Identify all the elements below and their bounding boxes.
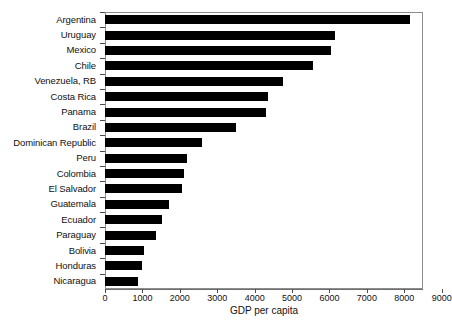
bar-row <box>105 104 423 119</box>
bar <box>105 123 236 132</box>
bar <box>105 77 283 86</box>
value-axis-tick-label: 2000 <box>170 293 190 304</box>
category-label: Chile <box>75 61 96 71</box>
bar <box>105 277 138 286</box>
category-label-cell: Costa Rica <box>0 89 101 104</box>
bar-series <box>105 12 423 289</box>
value-axis-tick-label: 8000 <box>394 293 414 304</box>
value-axis-tick-label: 4000 <box>245 293 265 304</box>
bar-row <box>105 27 423 42</box>
value-axis-tick-label: 6000 <box>319 293 339 304</box>
bar-row <box>105 227 423 242</box>
category-label: Guatemala <box>50 199 96 209</box>
bar <box>105 138 202 147</box>
value-axis-tick-label: 7000 <box>357 293 377 304</box>
category-label-cell: Panama <box>0 104 101 119</box>
category-label-cell: Ecuador <box>0 212 101 227</box>
bar-row <box>105 166 423 181</box>
value-axis-title: GDP per capita <box>105 305 423 317</box>
bar-row <box>105 120 423 135</box>
category-label: Bolivia <box>69 246 96 256</box>
value-axis-tick-label: 9000 <box>432 293 452 304</box>
category-label: Ecuador <box>61 215 96 225</box>
bar <box>105 200 169 209</box>
bar <box>105 61 313 70</box>
category-label: Colombia <box>57 169 96 179</box>
bar <box>105 15 410 24</box>
bar-row <box>105 151 423 166</box>
category-label: Brazil <box>73 122 96 132</box>
value-axis-tick-label: 3000 <box>207 293 227 304</box>
bar-row <box>105 74 423 89</box>
category-label: Panama <box>61 107 96 117</box>
bar-row <box>105 274 423 289</box>
value-axis-tick-label: 0 <box>102 293 107 304</box>
category-label: Mexico <box>67 45 97 55</box>
category-label-cell: Argentina <box>0 12 101 27</box>
category-axis-labels: ArgentinaUruguayMexicoChileVenezuela, RB… <box>0 12 101 289</box>
bar-row <box>105 181 423 196</box>
bar <box>105 92 268 101</box>
category-label: Uruguay <box>61 30 96 40</box>
category-label-cell: Venezuela, RB <box>0 74 101 89</box>
bar <box>105 246 144 255</box>
bar <box>105 169 184 178</box>
bar-row <box>105 135 423 150</box>
category-label-cell: Guatemala <box>0 197 101 212</box>
category-label-cell: Honduras <box>0 258 101 273</box>
value-axis-tick-label: 1000 <box>132 293 152 304</box>
category-label: Nicaragua <box>54 276 96 286</box>
category-label-cell: Peru <box>0 151 101 166</box>
bar-row <box>105 43 423 58</box>
bar <box>105 154 187 163</box>
bar-row <box>105 89 423 104</box>
category-label-cell: El Salvador <box>0 181 101 196</box>
category-label-cell: Chile <box>0 58 101 73</box>
bar-row <box>105 243 423 258</box>
category-label-cell: Mexico <box>0 43 101 58</box>
bar <box>105 215 162 224</box>
category-label: El Salvador <box>49 184 96 194</box>
bar <box>105 184 182 193</box>
bar <box>105 31 335 40</box>
bar-row <box>105 258 423 273</box>
bar-row <box>105 197 423 212</box>
category-label: Argentina <box>56 15 96 25</box>
category-label-cell: Brazil <box>0 120 101 135</box>
category-label-cell: Paraguay <box>0 227 101 242</box>
category-label-cell: Uruguay <box>0 27 101 42</box>
category-label-cell: Dominican Republic <box>0 135 101 150</box>
category-label-cell: Bolivia <box>0 243 101 258</box>
value-axis-tick-label: 5000 <box>282 293 302 304</box>
bar-row <box>105 212 423 227</box>
category-label-cell: Colombia <box>0 166 101 181</box>
value-axis-line <box>105 289 423 290</box>
category-label-cell: Nicaragua <box>0 274 101 289</box>
category-label: Dominican Republic <box>13 138 96 148</box>
category-label: Peru <box>76 153 96 163</box>
category-label: Paraguay <box>56 230 96 240</box>
category-label: Venezuela, RB <box>34 76 96 86</box>
bar-row <box>105 58 423 73</box>
bar <box>105 46 331 55</box>
category-label: Honduras <box>56 261 96 271</box>
bar <box>105 231 156 240</box>
gdp-per-capita-bar-chart: ArgentinaUruguayMexicoChileVenezuela, RB… <box>0 0 452 324</box>
bar-row <box>105 12 423 27</box>
category-label: Costa Rica <box>51 92 96 102</box>
bar <box>105 108 266 117</box>
bar <box>105 261 142 270</box>
